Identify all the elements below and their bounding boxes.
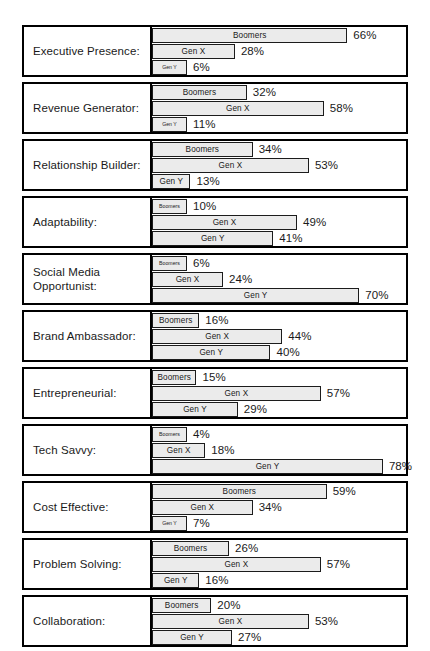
bar-series-label: Gen X bbox=[226, 104, 250, 113]
attribute-label-cell: Brand Ambassador: bbox=[24, 312, 152, 360]
bar-series-label: Boomers bbox=[174, 544, 207, 553]
bar-series-label: Gen X bbox=[225, 389, 249, 398]
attribute-group: Revenue Generator:Boomers32%Gen X58%Gen … bbox=[22, 82, 408, 134]
bar-gen-y: Gen Y bbox=[152, 117, 187, 132]
attribute-label: Problem Solving: bbox=[33, 557, 122, 571]
bar-row: Boomers4% bbox=[152, 427, 412, 442]
bar-series-label: Gen X bbox=[219, 617, 243, 626]
bar-value-label: 28% bbox=[241, 45, 264, 58]
bars-cell: Boomers6%Gen X24%Gen Y70% bbox=[152, 255, 406, 303]
attribute-group: Tech Savvy:Boomers4%Gen X18%Gen Y78% bbox=[22, 424, 408, 476]
bar-series-label: Gen Y bbox=[199, 348, 223, 357]
bar-value-label: 26% bbox=[235, 542, 258, 555]
bar-value-label: 4% bbox=[193, 428, 210, 441]
bar-series-label: Boomers bbox=[233, 31, 266, 40]
bars-cell: Boomers66%Gen X28%Gen Y6% bbox=[152, 27, 406, 75]
bar-row: Boomers26% bbox=[152, 541, 406, 556]
bar-boomers: Boomers bbox=[152, 427, 187, 442]
bar-row: Gen Y6% bbox=[152, 60, 406, 75]
bar-value-label: 20% bbox=[217, 599, 240, 612]
bar-value-label: 11% bbox=[193, 118, 215, 131]
bar-row: Boomers66% bbox=[152, 28, 406, 43]
bar-value-label: 57% bbox=[327, 558, 350, 571]
bar-series-label: Boomers bbox=[159, 202, 180, 211]
bar-series-label: Gen Y bbox=[180, 633, 204, 642]
bar-value-label: 58% bbox=[330, 102, 353, 115]
bar-value-label: 15% bbox=[202, 371, 225, 384]
bars-cell: Boomers10%Gen X49%Gen Y41% bbox=[152, 198, 406, 246]
bar-value-label: 10% bbox=[193, 200, 216, 213]
bar-row: Boomers6% bbox=[152, 256, 406, 271]
bar-row: Gen X44% bbox=[152, 329, 406, 344]
bar-row: Gen Y78% bbox=[152, 459, 412, 474]
bar-series-label: Gen Y bbox=[256, 462, 280, 471]
bar-value-label: 6% bbox=[193, 257, 210, 270]
bar-gen-x: Gen X bbox=[152, 557, 321, 572]
attribute-label: Executive Presence: bbox=[33, 44, 140, 58]
bar-gen-x: Gen X bbox=[152, 500, 253, 515]
bar-boomers: Boomers bbox=[152, 142, 253, 157]
bar-row: Gen X53% bbox=[152, 614, 406, 629]
bar-value-label: 40% bbox=[276, 346, 299, 359]
bar-series-label: Gen Y bbox=[201, 234, 225, 243]
bar-row: Gen Y29% bbox=[152, 402, 406, 417]
bar-gen-x: Gen X bbox=[152, 215, 297, 230]
bar-series-label: Gen X bbox=[182, 47, 206, 56]
bar-gen-x: Gen X bbox=[152, 272, 223, 287]
attribute-label-cell: Collaboration: bbox=[24, 597, 152, 645]
bar-gen-x: Gen X bbox=[152, 329, 282, 344]
attribute-label: Brand Ambassador: bbox=[33, 329, 136, 343]
bar-value-label: 24% bbox=[229, 273, 252, 286]
bar-row: Gen Y13% bbox=[152, 174, 406, 189]
bar-value-label: 34% bbox=[259, 501, 282, 514]
bar-row: Gen X53% bbox=[152, 158, 406, 173]
bars-cell: Boomers26%Gen X57%Gen Y16% bbox=[152, 540, 406, 588]
bar-boomers: Boomers bbox=[152, 598, 211, 613]
bar-row: Boomers32% bbox=[152, 85, 406, 100]
bar-series-label: Gen Y bbox=[164, 576, 188, 585]
bar-gen-x: Gen X bbox=[152, 44, 235, 59]
bar-boomers: Boomers bbox=[152, 541, 229, 556]
bar-row: Gen X49% bbox=[152, 215, 406, 230]
attribute-label-cell: Adaptability: bbox=[24, 198, 152, 246]
bar-row: Gen Y27% bbox=[152, 630, 406, 645]
attribute-group: Executive Presence:Boomers66%Gen X28%Gen… bbox=[22, 25, 408, 77]
bar-series-label: Boomers bbox=[165, 601, 198, 610]
grouped-bar-chart: Executive Presence:Boomers66%Gen X28%Gen… bbox=[22, 25, 408, 651]
bar-row: Gen X24% bbox=[152, 272, 406, 287]
bar-series-label: Gen X bbox=[213, 218, 237, 227]
bar-boomers: Boomers bbox=[152, 370, 196, 385]
bar-row: Gen X58% bbox=[152, 101, 406, 116]
attribute-label-cell: Revenue Generator: bbox=[24, 84, 152, 132]
bar-value-label: 16% bbox=[205, 574, 228, 587]
bar-series-label: Boomers bbox=[159, 430, 180, 439]
bar-series-label: Gen Y bbox=[162, 519, 177, 528]
bar-gen-y: Gen Y bbox=[152, 573, 199, 588]
bar-gen-y: Gen Y bbox=[152, 459, 383, 474]
bar-boomers: Boomers bbox=[152, 85, 247, 100]
attribute-label: Tech Savvy: bbox=[33, 443, 96, 457]
bar-boomers: Boomers bbox=[152, 256, 187, 271]
attribute-group: Collaboration:Boomers20%Gen X53%Gen Y27% bbox=[22, 595, 408, 647]
bar-row: Boomers15% bbox=[152, 370, 406, 385]
attribute-label: Collaboration: bbox=[33, 614, 105, 628]
bar-value-label: 7% bbox=[193, 517, 210, 530]
bar-gen-x: Gen X bbox=[152, 443, 205, 458]
bar-series-label: Gen Y bbox=[162, 120, 177, 129]
attribute-label-cell: Tech Savvy: bbox=[24, 426, 152, 474]
bar-value-label: 66% bbox=[353, 29, 376, 42]
bars-cell: Boomers32%Gen X58%Gen Y11% bbox=[152, 84, 406, 132]
bar-row: Gen Y11% bbox=[152, 117, 406, 132]
bar-boomers: Boomers bbox=[152, 28, 347, 43]
bar-gen-y: Gen Y bbox=[152, 60, 187, 75]
bar-gen-x: Gen X bbox=[152, 386, 321, 401]
bar-value-label: 34% bbox=[259, 143, 282, 156]
bar-row: Boomers10% bbox=[152, 199, 406, 214]
bar-gen-x: Gen X bbox=[152, 101, 324, 116]
attribute-label-cell: Relationship Builder: bbox=[24, 141, 152, 189]
bar-gen-y: Gen Y bbox=[152, 174, 190, 189]
bar-series-label: Gen Y bbox=[159, 177, 183, 186]
attribute-label-cell: Entrepreneurial: bbox=[24, 369, 152, 417]
attribute-group: Problem Solving:Boomers26%Gen X57%Gen Y1… bbox=[22, 538, 408, 590]
bar-boomers: Boomers bbox=[152, 484, 327, 499]
